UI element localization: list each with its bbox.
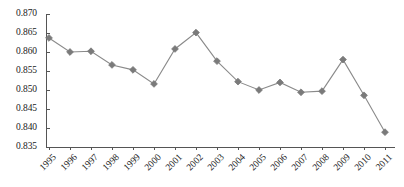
data-point-marker <box>151 81 158 88</box>
axis-tick-marks <box>46 14 385 150</box>
data-point-markers <box>46 29 389 135</box>
data-point-marker <box>277 79 284 86</box>
data-point-marker <box>340 56 347 63</box>
data-point-marker <box>298 89 305 96</box>
data-point-marker <box>382 129 389 136</box>
data-point-marker <box>130 66 137 73</box>
data-point-marker <box>361 92 368 99</box>
plot-area <box>0 0 404 187</box>
data-series-line <box>49 33 385 133</box>
series-polyline <box>49 33 385 133</box>
axis-lines <box>46 14 395 147</box>
data-point-marker <box>256 87 263 94</box>
line-chart: 0.8350.8400.8450.8500.8550.8600.8650.870… <box>0 0 404 187</box>
data-point-marker <box>46 35 53 42</box>
data-point-marker <box>88 48 95 55</box>
data-point-marker <box>109 62 116 69</box>
data-point-marker <box>319 88 326 95</box>
data-point-marker <box>67 49 74 56</box>
